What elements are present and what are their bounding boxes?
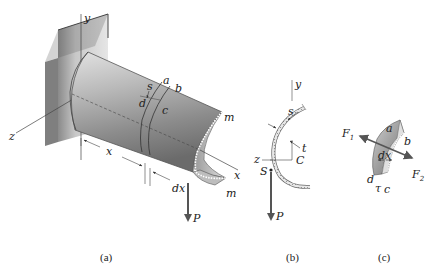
x-axis-label: x [234, 169, 241, 182]
dim-dx-label: dx [172, 182, 186, 195]
label-b-c: b [404, 135, 411, 148]
force-f2-label: F2 [411, 168, 425, 183]
caption-a: (a) [100, 251, 113, 264]
channel-tube [70, 52, 226, 185]
panel-b: y s t C z S P (b) [253, 78, 310, 264]
label-a: a [163, 74, 170, 87]
label-m-bottom: m [226, 187, 236, 200]
force-f2-arrow [393, 150, 412, 158]
z-axis-label-b: z [253, 153, 260, 166]
panel-c: F1 F2 dx a b d τ c (c) [341, 120, 425, 264]
load-p-arrow: P [184, 183, 201, 225]
label-dx-c: dx [378, 149, 392, 162]
label-s-shear-center: S [260, 165, 268, 178]
label-c: c [162, 104, 168, 117]
label-s-b: s [288, 105, 294, 118]
load-p-label: P [192, 212, 201, 225]
label-tau-c: τ [375, 182, 382, 195]
shear-center-point [269, 168, 272, 171]
figure-canvas: y z x s a b d c [0, 0, 431, 274]
dim-x-label: x [106, 145, 113, 158]
label-m-top: m [224, 111, 234, 124]
z-axis-label: z [8, 130, 15, 143]
load-p-label-b: P [275, 210, 284, 223]
panel-a: y z x s a b d c [8, 12, 241, 264]
caption-b: (b) [286, 251, 299, 264]
label-c-c: c [384, 183, 390, 196]
y-axis-label: y [83, 12, 91, 25]
label-d: d [139, 97, 146, 110]
force-f1-label: F1 [341, 127, 354, 142]
label-s: s [147, 80, 153, 93]
caption-c: (c) [378, 251, 391, 264]
y-axis-label-b: y [294, 78, 302, 91]
label-c-b: C [296, 154, 305, 167]
label-a-c: a [386, 122, 393, 135]
label-d-c: d [367, 173, 374, 186]
label-b: b [175, 82, 182, 95]
